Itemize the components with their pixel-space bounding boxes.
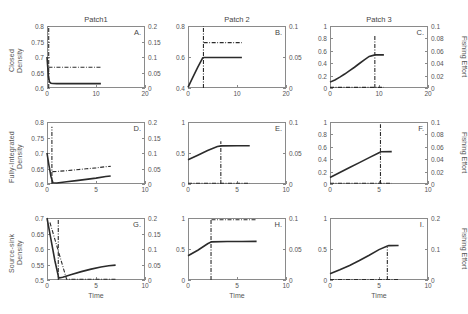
series-layer <box>330 122 428 184</box>
x-tick-label: 0 <box>45 186 49 193</box>
y2-tick-label: 0.05 <box>289 150 302 157</box>
y2-tick-label: 0.06 <box>431 47 444 54</box>
y-tick-label: 0.6 <box>35 246 44 253</box>
y2-tick-label: 0.05 <box>148 165 161 172</box>
series-effort-equilibrium <box>52 166 110 171</box>
x-tick-mark <box>145 181 146 184</box>
y-tick-label: 0.5 <box>176 246 185 253</box>
y2-tick-mark <box>283 280 286 281</box>
row-label-3: Source-sink Density <box>8 222 24 284</box>
y-tick-label: 0 <box>323 277 327 284</box>
y2-tick-mark <box>142 184 145 185</box>
panel-h: H.00.5100.050.10510Time <box>188 218 286 280</box>
series-layer <box>47 26 145 88</box>
y-tick-label: 0.4 <box>318 60 327 67</box>
y-tick-label: 0.65 <box>31 230 44 237</box>
x-tick-label: 5 <box>377 186 381 193</box>
y-tick-label: 1 <box>181 215 185 222</box>
x-tick-label: 0 <box>45 90 49 97</box>
x-axis-label: Time <box>330 292 428 299</box>
y-tick-label: 1 <box>323 215 327 222</box>
y2-tick-label: 0.08 <box>431 131 444 138</box>
y-tick-mark <box>188 280 191 281</box>
row-label-1: Closed Density <box>8 30 24 92</box>
panel-f: F.00.20.40.60.8100.020.040.060.080.10510 <box>330 122 428 184</box>
row-label-2: Fully-Integrated Density <box>8 126 24 188</box>
right-axis-label-row-2: Fishing Effort <box>461 122 468 184</box>
y-tick-mark <box>330 280 333 281</box>
series-density <box>188 146 250 160</box>
x-tick-mark <box>428 277 429 280</box>
y2-tick-mark <box>283 88 286 89</box>
panel-b: Patch 2B.0.40.60.800.050.101020 <box>188 26 286 88</box>
y2-tick-label: 0.2 <box>148 23 157 30</box>
y-tick-label: 1 <box>323 23 327 30</box>
series-density <box>47 57 101 84</box>
y-tick-label: 0.6 <box>318 143 327 150</box>
y2-tick-label: 0.1 <box>431 119 440 126</box>
y2-tick-mark <box>142 280 145 281</box>
x-tick-label: 20 <box>141 90 148 97</box>
x-tick-mark <box>145 277 146 280</box>
y2-tick-mark <box>425 184 428 185</box>
x-tick-label: 10 <box>233 90 240 97</box>
series-density <box>188 57 242 87</box>
x-tick-label: 20 <box>282 90 289 97</box>
y-tick-label: 0.6 <box>35 181 44 188</box>
y-tick-label: 0 <box>323 181 327 188</box>
y-tick-label: 0.5 <box>176 150 185 157</box>
series-density <box>188 241 257 255</box>
x-tick-label: 0 <box>328 186 332 193</box>
y-tick-mark <box>330 184 333 185</box>
y-tick-label: 0.4 <box>176 85 185 92</box>
y-tick-label: 0.8 <box>35 119 44 126</box>
y-tick-label: 0 <box>181 277 185 284</box>
x-tick-mark <box>286 181 287 184</box>
x-tick-label: 5 <box>94 282 98 289</box>
series-density <box>47 153 111 183</box>
x-tick-mark <box>286 85 287 88</box>
x-tick-label: 10 <box>375 90 382 97</box>
y2-tick-label: 0.1 <box>148 54 157 61</box>
panel-title: Patch 2 <box>188 15 286 24</box>
x-tick-label: 5 <box>235 282 239 289</box>
panel-i: I.00.5100.10.20510Time <box>330 218 428 280</box>
series-density <box>330 245 399 273</box>
y-tick-label: 0 <box>181 181 185 188</box>
x-tick-mark <box>428 85 429 88</box>
y-tick-mark <box>47 280 50 281</box>
y-tick-label: 0 <box>323 85 327 92</box>
y-tick-mark <box>47 88 50 89</box>
x-tick-label: 10 <box>141 282 148 289</box>
y2-tick-label: 0.1 <box>148 150 157 157</box>
y-tick-label: 0.5 <box>35 277 44 284</box>
x-tick-label: 5 <box>377 282 381 289</box>
y-tick-mark <box>330 88 333 89</box>
y-tick-label: 0.75 <box>31 38 44 45</box>
y2-tick-label: 0.2 <box>431 215 440 222</box>
x-tick-label: 0 <box>45 282 49 289</box>
series-density <box>330 55 384 82</box>
series-layer <box>188 218 286 280</box>
y-tick-mark <box>188 88 191 89</box>
y2-tick-label: 0.06 <box>431 143 444 150</box>
y2-tick-label: 0.1 <box>289 23 298 30</box>
y2-tick-label: 0.04 <box>431 60 444 67</box>
right-axis-label-row-3: Fishing Effort <box>461 218 468 280</box>
y2-tick-label: 0.05 <box>148 261 161 268</box>
panel-title: Patch 3 <box>330 15 428 24</box>
y2-tick-mark <box>142 88 145 89</box>
x-axis-label: Time <box>188 292 286 299</box>
y2-tick-label: 0.15 <box>148 230 161 237</box>
y-tick-label: 0.55 <box>31 261 44 268</box>
y-tick-label: 0.8 <box>318 131 327 138</box>
y-tick-label: 0.65 <box>31 69 44 76</box>
y2-tick-label: 0.2 <box>148 215 157 222</box>
y-tick-label: 0.2 <box>318 168 327 175</box>
x-tick-mark <box>145 85 146 88</box>
x-tick-label: 10 <box>141 186 148 193</box>
y2-tick-label: 0.05 <box>148 69 161 76</box>
y2-tick-label: 0.02 <box>431 72 444 79</box>
series-layer <box>330 218 428 280</box>
